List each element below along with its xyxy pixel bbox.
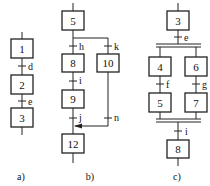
transition-label: j	[78, 112, 82, 123]
step-label: 3	[19, 112, 25, 124]
transition-label: g	[202, 79, 207, 90]
transition-label: n	[114, 112, 119, 123]
panel-caption: b)	[86, 171, 94, 183]
panel-c: 3 e 4 6 f g 5 7 i 8 c)	[149, 3, 207, 183]
step-label: 7	[193, 97, 199, 109]
step-label: 2	[19, 79, 25, 91]
transition-label: d	[28, 61, 33, 72]
panel-b: 5 h k 8 10 i 9 j n 12 b)	[62, 3, 119, 183]
step-label: 4	[157, 61, 163, 73]
step-label: 8	[70, 57, 76, 69]
transition-label: h	[79, 41, 84, 52]
step-label: 5	[70, 15, 76, 27]
step-label: 12	[68, 138, 79, 150]
transition-label: e	[184, 32, 189, 43]
panel-caption: c)	[173, 171, 181, 183]
arrow-left-icon	[74, 124, 82, 129]
step-label: 9	[70, 93, 76, 105]
grafcet-diagrams: 1 d 2 e 3 a) 5 h k 8 10 i 9 j n	[0, 0, 210, 186]
step-label: 5	[157, 97, 163, 109]
transition-label: i	[185, 126, 188, 137]
panel-caption: a)	[17, 171, 25, 183]
transition-label: e	[28, 96, 33, 107]
step-label: 1	[19, 43, 25, 55]
transition-label: k	[114, 41, 119, 52]
step-label: 8	[175, 143, 181, 155]
step-label: 3	[175, 15, 181, 27]
transition-label: i	[79, 75, 82, 86]
panel-a: 1 d 2 e 3 a)	[11, 32, 33, 183]
step-label: 10	[103, 57, 115, 69]
step-label: 6	[193, 61, 199, 73]
transition-label: f	[166, 79, 170, 90]
